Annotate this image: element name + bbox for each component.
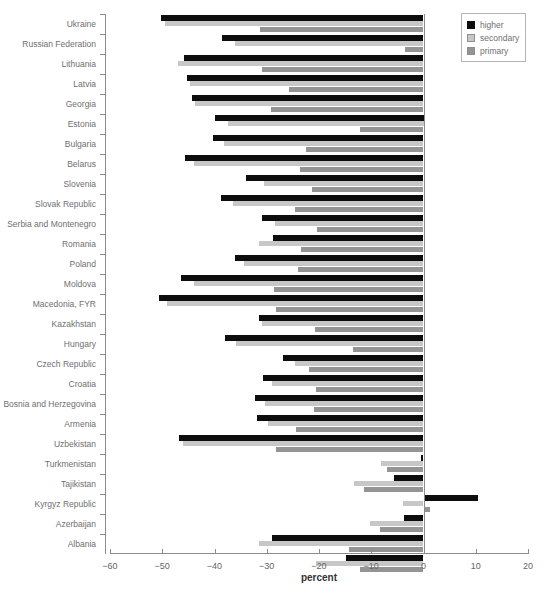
bar-secondary	[265, 401, 423, 406]
bar-higher	[161, 15, 423, 20]
bar-primary	[353, 347, 423, 352]
y-axis-category-label: Moldova	[64, 279, 96, 289]
plot-area: −60−50−40−30−20−1001020	[110, 14, 528, 554]
bar-secondary	[275, 221, 423, 226]
bar-primary	[405, 47, 423, 52]
bar-higher	[184, 55, 424, 60]
bar-primary	[298, 267, 423, 272]
y-axis-category-label: Ukraine	[67, 19, 96, 29]
bar-higher	[424, 495, 479, 500]
bar-primary	[295, 207, 424, 212]
y-axis-category-label: Croatia	[69, 379, 96, 389]
x-tick-label: 20	[523, 561, 533, 571]
x-tick	[267, 549, 268, 554]
x-tick-label: −40	[207, 561, 222, 571]
x-tick	[110, 549, 111, 554]
x-tick-label: −50	[155, 561, 170, 571]
y-axis-category-label: Slovenia	[63, 179, 96, 189]
y-axis-category-label: Czech Republic	[36, 359, 96, 369]
y-axis-category-label: Romania	[62, 239, 96, 249]
bar-primary	[300, 167, 423, 172]
faint-page-title	[8, 0, 338, 10]
y-axis-category-label: Slovak Republic	[35, 199, 96, 209]
legend-label-primary: primary	[480, 46, 508, 56]
y-axis-category-label: Armenia	[64, 419, 96, 429]
bar-higher	[272, 535, 423, 540]
legend-label-higher: higher	[480, 20, 504, 30]
bar-higher	[246, 175, 424, 180]
y-axis-category-label: Uzbekistan	[54, 439, 96, 449]
bar-higher	[346, 555, 423, 560]
bar-secondary	[236, 341, 424, 346]
y-axis-labels: UkraineRussian FederationLithuaniaLatvia…	[0, 14, 105, 554]
y-axis-category-label: Azerbaijan	[56, 519, 96, 529]
bar-higher	[221, 195, 424, 200]
bar-higher	[225, 335, 424, 340]
y-axis-category-label: Macedonia, FYR	[33, 299, 96, 309]
bar-secondary	[195, 101, 423, 106]
x-tick	[162, 549, 163, 554]
bar-primary	[312, 187, 423, 192]
bar-secondary	[178, 61, 424, 66]
bar-primary	[289, 87, 424, 92]
bar-primary	[276, 447, 423, 452]
y-axis-category-label: Belarus	[67, 159, 96, 169]
bar-primary	[309, 367, 423, 372]
x-tick-label: −60	[102, 561, 117, 571]
bar-higher	[181, 275, 424, 280]
bar-higher	[259, 315, 423, 320]
bar-higher	[255, 395, 424, 400]
bar-secondary	[194, 281, 423, 286]
y-axis-category-label: Serbia and Montenegro	[7, 219, 96, 229]
bar-secondary	[165, 21, 424, 26]
bar-secondary	[228, 121, 424, 126]
bar-secondary	[264, 181, 424, 186]
y-axis-category-label: Hungary	[64, 339, 96, 349]
bar-higher	[215, 115, 424, 120]
bar-primary	[314, 407, 424, 412]
x-tick	[319, 549, 320, 554]
legend-item-primary: primary	[467, 44, 519, 57]
y-axis-category-label: Estonia	[68, 119, 96, 129]
bar-secondary	[167, 301, 424, 306]
bar-primary	[387, 467, 423, 472]
bar-primary	[260, 27, 424, 32]
y-axis-category-label: Tajikistan	[61, 479, 96, 489]
x-tick-label: 10	[471, 561, 481, 571]
bar-primary	[276, 307, 423, 312]
y-axis-category-label: Kazakhstan	[52, 319, 96, 329]
x-tick	[528, 549, 529, 554]
bar-higher	[192, 95, 424, 100]
y-axis-category-label: Albania	[68, 539, 96, 549]
bar-higher	[235, 255, 423, 260]
bar-higher	[213, 135, 423, 140]
bar-primary	[317, 227, 424, 232]
bar-primary	[271, 107, 424, 112]
bar-higher	[273, 235, 423, 240]
legend-item-higher: higher	[467, 18, 519, 31]
x-tick-label: −10	[364, 561, 379, 571]
bar-higher	[159, 295, 423, 300]
bar-secondary	[268, 421, 423, 426]
legend-label-secondary: secondary	[480, 33, 519, 43]
bar-secondary	[259, 241, 424, 246]
bar-secondary	[235, 41, 424, 46]
x-tick-label: −20	[311, 561, 326, 571]
bar-higher	[263, 375, 423, 380]
x-tick	[215, 549, 216, 554]
bar-higher	[283, 355, 424, 360]
bar-higher	[262, 215, 423, 220]
bar-primary	[380, 527, 424, 532]
y-axis-line	[105, 14, 106, 554]
bar-higher	[257, 415, 424, 420]
bar-secondary	[259, 541, 423, 546]
x-tick	[371, 549, 372, 554]
x-tick-label: 0	[421, 561, 426, 571]
bar-secondary	[224, 141, 424, 146]
y-axis-category-label: Lithuania	[61, 59, 96, 69]
bar-higher	[394, 475, 424, 480]
bar-primary	[315, 327, 424, 332]
x-tick-label: −30	[259, 561, 274, 571]
bar-secondary	[244, 261, 424, 266]
bar-secondary	[403, 501, 424, 506]
